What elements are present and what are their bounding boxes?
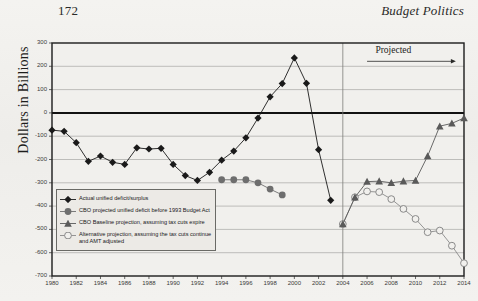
x-tick-label: 1984: [88, 280, 112, 286]
x-tick-label: 2012: [428, 280, 452, 286]
projected-annotation-label: Projected: [375, 45, 411, 55]
legend-marker-icon: [60, 220, 76, 230]
legend-label: CBO Baseline projection, assuming tax cu…: [79, 219, 205, 227]
x-tick-label: 1994: [210, 280, 234, 286]
x-tick-label: 2004: [331, 280, 355, 286]
y-tick-label: -300: [35, 179, 47, 185]
y-tick-label: -500: [35, 225, 47, 231]
y-tick-label: 200: [37, 62, 47, 68]
y-tick-label: -700: [35, 272, 47, 278]
x-tick-label: 1996: [234, 280, 258, 286]
chart-legend: Actual unified deficit/surplusCBO projec…: [56, 189, 216, 251]
x-tick-label: 2002: [307, 280, 331, 286]
legend-item-2: CBO Baseline projection, assuming tax cu…: [60, 219, 211, 230]
x-tick-label: 1982: [64, 280, 88, 286]
legend-item-0: Actual unified deficit/surplus: [60, 195, 211, 206]
legend-marker-icon: [60, 196, 76, 206]
y-tick-label: 100: [37, 86, 47, 92]
x-tick-label: 1980: [40, 280, 64, 286]
legend-marker-icon: [60, 232, 76, 242]
x-tick-label: 1998: [258, 280, 282, 286]
legend-item-3: Alternative projection, assuming the tax…: [60, 231, 211, 246]
legend-item-1: CBO projected unified deficit before 199…: [60, 207, 211, 218]
y-axis-label: Dollars in Billions: [16, 10, 32, 190]
y-tick-label: -600: [35, 249, 47, 255]
x-tick-label: 2014: [452, 280, 476, 286]
y-tick-label: -100: [35, 132, 47, 138]
x-tick-label: 1986: [113, 280, 137, 286]
x-tick-label: 1988: [137, 280, 161, 286]
x-tick-label: 2008: [379, 280, 403, 286]
legend-marker-icon: [60, 208, 76, 218]
y-tick-label: 0: [44, 109, 47, 115]
x-tick-label: 2006: [355, 280, 379, 286]
y-tick-label: 300: [37, 39, 47, 45]
y-tick-label: -400: [35, 202, 47, 208]
book-page: 172 Budget Politics Dollars in Billions …: [0, 0, 478, 301]
x-tick-label: 2010: [404, 280, 428, 286]
x-tick-label: 2000: [282, 280, 306, 286]
x-tick-label: 1992: [185, 280, 209, 286]
legend-label: Actual unified deficit/surplus: [79, 195, 148, 203]
legend-label: CBO projected unified deficit before 199…: [79, 207, 210, 215]
x-tick-label: 1990: [161, 280, 185, 286]
y-tick-label: -200: [35, 156, 47, 162]
legend-label: Alternative projection, assuming the tax…: [79, 231, 211, 246]
